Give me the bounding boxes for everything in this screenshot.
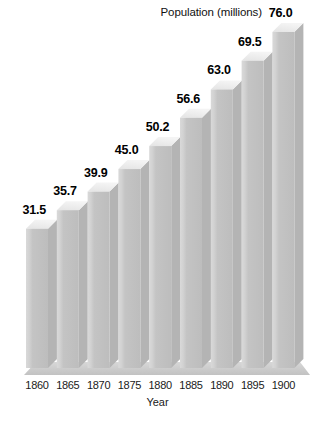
bar-side-face [264, 52, 273, 368]
bar-value-label: 69.5 [214, 35, 262, 49]
bar-side-face [140, 160, 149, 368]
bar-front-face [57, 210, 79, 368]
bar-front-face [242, 61, 264, 368]
bar-side-face [171, 137, 180, 368]
bar-side-face [294, 23, 303, 368]
bar-value-label: 63.0 [183, 63, 231, 77]
bar-front-face [180, 118, 202, 368]
bar-front-face [149, 146, 171, 368]
bar-value-label: 50.2 [121, 120, 169, 134]
x-axis-title: Year [0, 396, 315, 408]
bar-value-label: 31.5 [0, 203, 46, 217]
population-bar-chart: Population (millions) 31.535.739.945.050… [0, 0, 315, 422]
bar-front-face [88, 192, 110, 368]
bar-value-label: 39.9 [60, 166, 108, 180]
bar-value-label: 56.6 [152, 92, 200, 106]
bar-front-face [118, 169, 140, 368]
bar-front-face [211, 89, 233, 368]
bar-side-face [110, 183, 119, 368]
bar-side-face [233, 80, 242, 368]
bar-side-face [48, 220, 57, 368]
bar-value-label: 45.0 [90, 143, 138, 157]
bar-side-face [79, 201, 88, 368]
chart-canvas [0, 0, 315, 422]
bar-side-face [202, 109, 211, 368]
bar-value-label: 35.7 [29, 184, 77, 198]
bar-front-face [272, 32, 294, 368]
bar-front-face [26, 229, 48, 368]
bar-value-label: 76.0 [244, 6, 292, 20]
x-tick-label: 1900 [264, 379, 302, 391]
